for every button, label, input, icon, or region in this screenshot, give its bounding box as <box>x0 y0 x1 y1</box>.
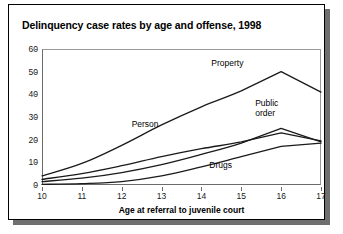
y-tick-mark <box>35 94 38 95</box>
plot-area <box>42 49 321 185</box>
x-axis-title: Age at referral to juvenile court <box>42 205 321 215</box>
y-tick-mark <box>35 72 38 73</box>
x-tick-mark <box>281 187 282 191</box>
x-tick-label: 15 <box>229 191 253 201</box>
y-tick-mark <box>35 140 38 141</box>
series-label-line2: order <box>255 108 278 118</box>
series-label-person: Person <box>132 119 159 129</box>
series-label-drugs: Drugs <box>209 160 232 170</box>
x-tick-mark <box>122 187 123 191</box>
x-axis: 1011121314151617 <box>42 191 321 203</box>
x-tick-label: 13 <box>150 191 174 201</box>
y-tick-mark <box>35 185 38 186</box>
x-tick-label: 14 <box>189 191 213 201</box>
x-tick-mark <box>201 187 202 191</box>
chart-figure: Delinquency case rates by age and offens… <box>8 4 325 220</box>
x-tick-label: 16 <box>269 191 293 201</box>
y-tick-mark <box>35 117 38 118</box>
x-tick-label: 10 <box>30 191 54 201</box>
x-tick-mark <box>82 187 83 191</box>
y-axis: 0102030405060 <box>17 49 38 185</box>
series-line-person <box>42 133 321 179</box>
x-tick-label: 11 <box>70 191 94 201</box>
x-tick-label: 17 <box>309 191 333 201</box>
x-tick-label: 12 <box>110 191 134 201</box>
y-tick-mark <box>35 162 38 163</box>
x-tick-mark <box>42 187 43 191</box>
x-tick-mark <box>321 187 322 191</box>
x-tick-mark <box>241 187 242 191</box>
y-tick-mark <box>35 49 38 50</box>
series-lines <box>42 49 321 185</box>
x-tick-mark <box>162 187 163 191</box>
series-label-public-order: Publicorder <box>255 98 278 118</box>
series-label-line1: Public <box>255 98 278 108</box>
series-label-property: Property <box>211 58 243 68</box>
chart-title: Delinquency case rates by age and offens… <box>22 19 312 31</box>
